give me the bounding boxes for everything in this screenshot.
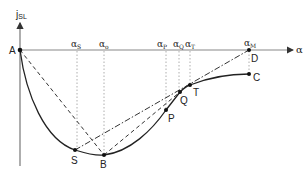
alpha-m-label: αM bbox=[244, 38, 256, 49]
point-labels: A S B P Q T C D bbox=[9, 45, 260, 170]
label-s: S bbox=[71, 155, 78, 166]
alpha-t-label: αT bbox=[185, 39, 195, 50]
x-axis-label: α bbox=[296, 44, 303, 55]
point-s bbox=[73, 148, 77, 152]
point-a bbox=[18, 48, 23, 53]
label-q: Q bbox=[180, 95, 188, 106]
point-d bbox=[247, 48, 251, 52]
label-b: B bbox=[100, 159, 107, 170]
point-p bbox=[164, 108, 168, 112]
alpha-s-label: αS bbox=[71, 39, 81, 50]
dashed-line-a-b bbox=[20, 50, 104, 155]
label-p: P bbox=[168, 113, 175, 124]
point-c bbox=[247, 72, 251, 76]
alpha-q-label: αQ bbox=[173, 39, 184, 50]
label-t: T bbox=[193, 87, 199, 98]
points bbox=[18, 48, 251, 157]
alpha-labels: αS αo αP αQ αT αM bbox=[71, 38, 256, 50]
diagram-canvas: jSL α αS αo αP αQ αT αM A S B bbox=[0, 0, 304, 173]
label-a: A bbox=[9, 45, 16, 56]
point-t bbox=[188, 83, 192, 87]
main-curve bbox=[20, 50, 249, 155]
point-b bbox=[102, 153, 106, 157]
y-axis-label: jSL bbox=[15, 9, 27, 20]
point-q bbox=[178, 90, 182, 94]
alpha-guides bbox=[77, 51, 249, 155]
alpha-o-label: αo bbox=[99, 39, 109, 50]
label-d: D bbox=[251, 53, 258, 64]
label-c: C bbox=[253, 72, 260, 83]
alpha-p-label: αP bbox=[157, 39, 167, 50]
dashdot-line-s-d bbox=[75, 50, 249, 150]
